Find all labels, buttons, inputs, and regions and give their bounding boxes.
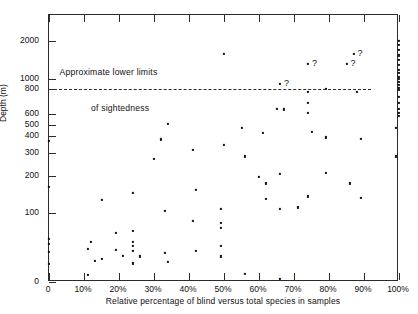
data-point	[307, 112, 309, 114]
y-axis-tick	[49, 176, 56, 177]
data-point	[394, 127, 396, 129]
data-point	[93, 260, 95, 262]
data-point	[139, 255, 141, 257]
x-axis-tick-label: 60%	[238, 285, 278, 294]
y-axis-tick	[49, 125, 56, 126]
data-point	[240, 127, 242, 129]
data-point	[352, 53, 354, 55]
sightedness-caption-line1: Approximate lower limits	[60, 68, 158, 77]
data-point	[324, 136, 326, 138]
x-axis-tick	[224, 273, 225, 280]
x-axis-tick	[399, 273, 400, 280]
x-axis-tick-top	[329, 15, 330, 22]
data-point	[48, 186, 50, 188]
y-axis-tick-label: 100	[0, 208, 39, 217]
data-point	[265, 198, 267, 200]
uncertain-point-marker: ?	[284, 79, 289, 88]
data-point	[279, 207, 281, 209]
data-point	[307, 90, 309, 92]
uncertain-point-marker: ?	[358, 49, 363, 58]
data-point	[223, 53, 225, 55]
data-point	[398, 40, 400, 42]
data-point	[265, 182, 267, 184]
y-axis-tick	[49, 136, 56, 137]
x-axis-tick	[259, 273, 260, 280]
data-point	[132, 262, 134, 264]
x-axis-tick-label: 80%	[308, 285, 348, 294]
data-point	[163, 210, 165, 212]
y-axis-tick-label: 800	[0, 84, 39, 93]
data-point	[398, 49, 400, 51]
uncertain-point-marker: ?	[312, 58, 317, 67]
data-point	[296, 206, 298, 208]
x-axis-tick	[119, 273, 120, 280]
data-point	[48, 263, 50, 265]
x-axis-tick-label: 50%	[203, 285, 243, 294]
plot-frame: Approximate lower limitsof sightedness??…	[48, 14, 398, 281]
data-point	[163, 252, 165, 254]
data-point	[398, 68, 400, 70]
data-point	[244, 273, 246, 275]
x-axis-tick-label: 70%	[273, 285, 313, 294]
data-point	[279, 83, 281, 85]
data-point	[191, 220, 193, 222]
data-point	[219, 222, 221, 224]
data-point	[132, 250, 134, 252]
y-axis-tick-label: 400	[0, 131, 39, 140]
data-point	[398, 95, 400, 97]
data-point	[394, 155, 396, 157]
data-point	[324, 171, 326, 173]
y-axis-tick	[49, 153, 56, 154]
data-point	[398, 102, 400, 104]
y-axis-tick	[49, 114, 56, 115]
data-point	[219, 207, 221, 209]
y-axis-tick-label: 600	[0, 109, 39, 118]
data-point	[398, 89, 400, 91]
data-point	[86, 248, 88, 250]
data-point	[398, 112, 400, 114]
data-point	[114, 248, 116, 250]
data-point	[167, 261, 169, 263]
y-axis-tick	[49, 41, 56, 42]
x-axis-title: Relative percentage of blind versus tota…	[48, 296, 398, 306]
data-point	[223, 143, 225, 145]
x-axis-tick-top	[154, 15, 155, 22]
data-point	[121, 255, 123, 257]
x-axis-tick-label: 90%	[343, 285, 383, 294]
sightedness-caption-line2: of sightedness	[91, 104, 149, 113]
data-point	[349, 182, 351, 184]
data-point	[359, 138, 361, 140]
data-point	[195, 189, 197, 191]
x-axis-tick	[294, 273, 295, 280]
data-point	[398, 54, 400, 56]
data-point	[191, 149, 193, 151]
data-point	[100, 258, 102, 260]
data-point	[398, 78, 400, 80]
data-point	[356, 90, 358, 92]
y-axis-tick-label: 2000	[0, 36, 39, 45]
x-axis-tick-top	[189, 15, 190, 22]
x-axis-tick-top	[84, 15, 85, 22]
data-point	[398, 115, 400, 117]
x-axis-tick-label: 10%	[63, 285, 103, 294]
x-axis-tick-label: 40%	[168, 285, 208, 294]
data-point	[398, 44, 400, 46]
x-axis-tick-label: 20%	[98, 285, 138, 294]
data-point	[398, 63, 400, 65]
x-axis-tick	[189, 273, 190, 280]
data-point	[90, 241, 92, 243]
data-point	[219, 255, 221, 257]
data-point	[48, 251, 50, 253]
data-point	[398, 108, 400, 110]
x-axis-tick-top	[294, 15, 295, 22]
data-point	[160, 138, 162, 140]
y-axis-tick	[49, 79, 56, 80]
data-point	[398, 72, 400, 74]
data-point	[345, 63, 347, 65]
data-point	[48, 238, 50, 240]
y-axis-tick-label: 500	[0, 120, 39, 129]
data-point	[310, 131, 312, 133]
data-point	[86, 274, 88, 276]
data-point	[219, 227, 221, 229]
x-axis-tick-top	[259, 15, 260, 22]
